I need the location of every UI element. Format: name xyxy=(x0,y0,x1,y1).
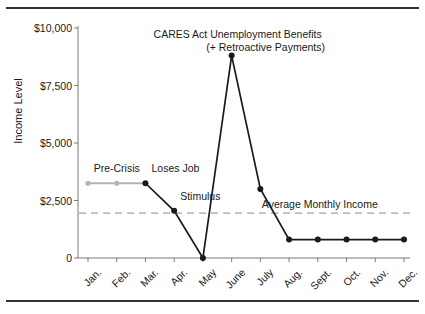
annotation-loses-job: Loses Job xyxy=(151,162,199,174)
data-point-marker xyxy=(372,237,378,243)
series-segment-crisis xyxy=(145,56,404,258)
data-point-marker xyxy=(401,237,407,243)
y-axis-ticks xyxy=(74,28,78,258)
data-point-marker xyxy=(200,255,206,261)
annotation-pre-crisis: Pre-Crisis xyxy=(94,162,140,174)
annotation-cares-act-line1: CARES Act Unemployment Benefits xyxy=(154,28,322,40)
data-point-marker xyxy=(171,208,177,214)
x-axis-ticks xyxy=(88,258,404,262)
annotation-stimulus: Stimulus xyxy=(180,190,220,202)
annotation-average-monthly-income: Average Monthly Income xyxy=(262,198,378,210)
figure-container: Income Level 0$2,500$5,000$7,500$10,000 … xyxy=(0,0,425,314)
data-point-marker xyxy=(257,186,263,192)
data-point-marker xyxy=(114,181,119,186)
annotation-cares-act-line2: (+ Retroactive Payments) xyxy=(206,41,325,53)
line-chart-plot: Income Level 0$2,500$5,000$7,500$10,000 … xyxy=(0,0,425,314)
data-point-marker xyxy=(85,181,90,186)
data-point-marker xyxy=(142,180,148,186)
axis-lines xyxy=(78,26,410,258)
data-point-marker xyxy=(286,237,292,243)
data-point-marker xyxy=(344,237,350,243)
data-point-marker xyxy=(315,237,321,243)
data-point-marker xyxy=(229,53,235,59)
